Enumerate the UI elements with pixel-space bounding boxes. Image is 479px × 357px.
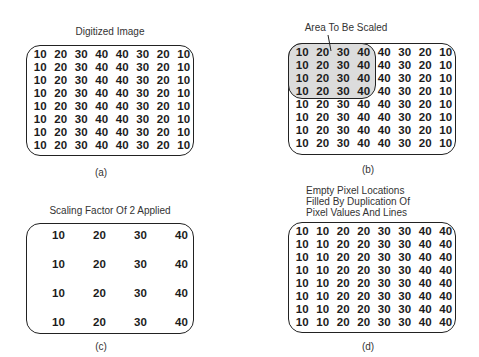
pixel-value: 20 [354, 316, 375, 329]
pixel-value: 30 [395, 137, 416, 150]
pixel-value: 40 [415, 264, 436, 277]
pixel-value: 10 [292, 59, 313, 72]
pixel-value: 40 [436, 290, 457, 303]
pixel-value: 10 [436, 46, 457, 59]
pixel-value: 20 [354, 303, 375, 316]
pixel-value: 10 [313, 316, 334, 329]
pixel-value: 20 [333, 238, 354, 251]
pixel-value: 20 [415, 59, 436, 72]
pixel-value: 40 [354, 59, 375, 72]
pixel-value: 40 [354, 46, 375, 59]
pixel-value: 40 [161, 258, 202, 271]
pixel-value: 10 [436, 85, 457, 98]
pixel-value: 10 [292, 225, 313, 238]
pixel-value: 30 [395, 277, 416, 290]
pixel-value: 30 [374, 316, 395, 329]
pixel-value: 10 [38, 316, 79, 329]
pixel-value: 30 [120, 316, 161, 329]
pixel-value: 10 [292, 277, 313, 290]
pixel-value: 30 [333, 111, 354, 124]
pixel-value: 40 [354, 72, 375, 85]
pixel-value: 40 [374, 72, 395, 85]
pixel-value: 10 [38, 287, 79, 300]
pixel-value: 30 [395, 85, 416, 98]
pixel-value: 30 [374, 303, 395, 316]
pixel-value: 40 [374, 124, 395, 137]
pixel-value: 10 [313, 290, 334, 303]
pixel-value: 10 [292, 251, 313, 264]
pixel-value: 20 [313, 72, 334, 85]
pixel-value: 30 [395, 303, 416, 316]
filled-grid: 1010202030304040101020203030404010102020… [292, 225, 452, 329]
pixel-value: 30 [395, 72, 416, 85]
scaled-grid: 10203040102030401020304010203040 [38, 229, 188, 329]
pixel-value: 30 [395, 46, 416, 59]
pixel-value: 30 [395, 59, 416, 72]
pixel-value: 20 [313, 46, 334, 59]
pixel-value: 40 [415, 225, 436, 238]
pixel-value: 40 [374, 46, 395, 59]
pixel-value: 40 [354, 124, 375, 137]
pixel-value: 10 [313, 277, 334, 290]
pixel-value: 10 [292, 290, 313, 303]
pixel-value: 20 [333, 277, 354, 290]
pixel-value: 10 [313, 225, 334, 238]
pixel-value: 40 [374, 59, 395, 72]
pixel-value: 30 [374, 277, 395, 290]
pixel-value: 30 [120, 229, 161, 242]
pixel-value: 30 [395, 316, 416, 329]
pixel-value: 10 [292, 124, 313, 137]
pixel-value: 30 [333, 137, 354, 150]
panel-c-title: Scaling Factor Of 2 Applied [26, 205, 194, 216]
panel-c-caption: (c) [86, 341, 116, 352]
pixel-value: 20 [354, 290, 375, 303]
pixel-value: 40 [415, 251, 436, 264]
pixel-value: 10 [436, 111, 457, 124]
pixel-value: 40 [374, 98, 395, 111]
pixel-value: 10 [313, 303, 334, 316]
pixel-value: 10 [292, 238, 313, 251]
pixel-value: 40 [354, 85, 375, 98]
pixel-value: 20 [79, 229, 120, 242]
pixel-value: 20 [333, 303, 354, 316]
pixel-value: 30 [333, 72, 354, 85]
pixel-value: 30 [395, 111, 416, 124]
panel-d-title-line-2: Filled By Duplication Of [306, 196, 410, 207]
pixel-value: 20 [415, 98, 436, 111]
pixel-value: 30 [395, 225, 416, 238]
pixel-value: 40 [436, 303, 457, 316]
area-grid: 1020304040302010102030404030201010203040… [292, 46, 452, 150]
pixel-value: 10 [292, 137, 313, 150]
pixel-value: 30 [374, 264, 395, 277]
pixel-value: 40 [436, 251, 457, 264]
pixel-value: 40 [415, 277, 436, 290]
pixel-value: 10 [292, 316, 313, 329]
pixel-value: 20 [313, 124, 334, 137]
pixel-value: 10 [38, 229, 79, 242]
pixel-value: 40 [436, 264, 457, 277]
pixel-value: 40 [415, 316, 436, 329]
pixel-value: 20 [313, 137, 334, 150]
pixel-value: 20 [354, 238, 375, 251]
pixel-value: 10 [313, 264, 334, 277]
pixel-value: 20 [79, 316, 120, 329]
pixel-value: 30 [395, 238, 416, 251]
pixel-value: 30 [120, 258, 161, 271]
pixel-value: 30 [395, 290, 416, 303]
pixel-value: 20 [354, 264, 375, 277]
panel-d-caption: (d) [353, 341, 383, 352]
pixel-value: 30 [395, 251, 416, 264]
pixel-value: 10 [436, 124, 457, 137]
pixel-value: 40 [436, 225, 457, 238]
pixel-value: 40 [415, 238, 436, 251]
pixel-value: 40 [436, 238, 457, 251]
pixel-value: 30 [395, 98, 416, 111]
pixel-value: 30 [395, 124, 416, 137]
pixel-value: 10 [313, 251, 334, 264]
pixel-value: 20 [415, 72, 436, 85]
pixel-value: 30 [333, 98, 354, 111]
pixel-value: 10 [292, 98, 313, 111]
pixel-value: 10 [38, 258, 79, 271]
pixel-value: 20 [313, 85, 334, 98]
pixel-value: 10 [292, 72, 313, 85]
